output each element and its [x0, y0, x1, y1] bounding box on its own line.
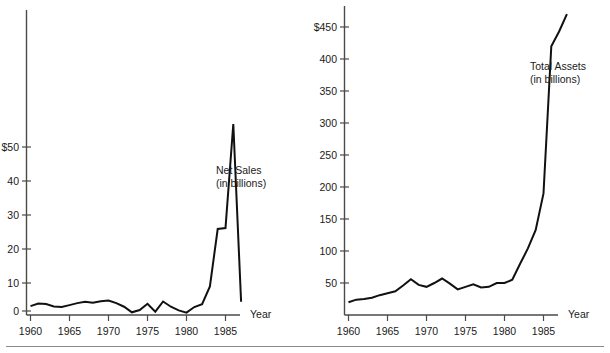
total-assets-data-line — [349, 14, 567, 302]
y-tick-label-30: 30 — [7, 209, 19, 221]
y-tick-label-100: 100 — [319, 245, 337, 257]
x-tick-label-1985: 1985 — [532, 325, 556, 337]
x-axis-title: Year — [568, 308, 590, 320]
x-tick-label-1965: 1965 — [376, 325, 400, 337]
x-tick-label-1980: 1980 — [175, 325, 199, 337]
net-sales-chart-svg: $50 40 30 20 10 0 1960 1965 1970 1975 19… — [0, 0, 305, 353]
y-tick-label-150: 150 — [319, 213, 337, 225]
chart-panel-total-assets: $450 400 350 300 250 200 150 100 50 1960… — [305, 0, 610, 353]
y-tick-label-250: 250 — [319, 149, 337, 161]
y-tick-label-20: 20 — [7, 243, 19, 255]
y-tick-label-10: 10 — [7, 277, 19, 289]
x-tick-label-1960: 1960 — [337, 325, 361, 337]
x-tick-label-1980: 1980 — [493, 325, 517, 337]
series-annotation-line2: (in billions) — [530, 73, 580, 85]
x-tick-label-1975: 1975 — [136, 325, 160, 337]
total-assets-chart-svg: $450 400 350 300 250 200 150 100 50 1960… — [305, 0, 610, 353]
series-annotation-line1: Total Assets — [530, 60, 586, 72]
x-axis-title: Year — [250, 308, 272, 320]
x-tick-label-1970: 1970 — [97, 325, 121, 337]
y-tick-label-450: $450 — [314, 21, 338, 33]
chart-panel-net-sales: $50 40 30 20 10 0 1960 1965 1970 1975 19… — [0, 0, 305, 353]
x-tick-marks — [31, 315, 226, 321]
two-panel-line-chart-figure: $50 40 30 20 10 0 1960 1965 1970 1975 19… — [0, 0, 610, 353]
x-tick-label-1970: 1970 — [415, 325, 439, 337]
series-annotation-line2: (in billions) — [216, 177, 266, 189]
y-tick-label-50: $50 — [1, 141, 19, 153]
net-sales-data-line — [31, 124, 242, 313]
x-tick-label-1965: 1965 — [58, 325, 82, 337]
series-annotation-line1: Net Sales — [216, 164, 262, 176]
x-tick-marks — [349, 315, 544, 321]
x-tick-label-1960: 1960 — [19, 325, 43, 337]
y-tick-label-400: 400 — [319, 53, 337, 65]
y-tick-label-350: 350 — [319, 85, 337, 97]
y-tick-label-0: 0 — [13, 305, 19, 317]
figure-bottom-rule — [6, 346, 604, 347]
y-tick-label-40: 40 — [7, 175, 19, 187]
y-tick-label-300: 300 — [319, 117, 337, 129]
x-tick-label-1985: 1985 — [214, 325, 238, 337]
x-tick-label-1975: 1975 — [454, 325, 478, 337]
y-tick-label-50: 50 — [325, 277, 337, 289]
y-tick-label-200: 200 — [319, 181, 337, 193]
